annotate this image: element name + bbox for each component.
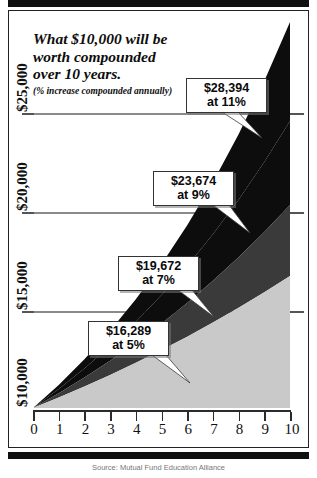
callout-5-percent: $16,289 at 5% bbox=[88, 321, 169, 356]
bottom-rule bbox=[8, 452, 309, 459]
callout-rate-9: at 9% bbox=[160, 189, 227, 203]
ytick-label-25000: $25,000 bbox=[14, 63, 31, 112]
callout-rate-5: at 5% bbox=[95, 339, 162, 353]
callout-rate-7: at 7% bbox=[125, 274, 192, 288]
xtick-label-8: 8 bbox=[230, 421, 250, 438]
ytick-label-15000: $15,000 bbox=[14, 261, 31, 310]
ytick-label-10000: $10,000 bbox=[14, 358, 31, 407]
gridtick-right-20000 bbox=[290, 212, 304, 214]
xtick-label-0: 0 bbox=[24, 421, 44, 438]
xtick-label-7: 7 bbox=[204, 421, 224, 438]
callout-amount-5: $16,289 bbox=[95, 325, 162, 339]
xtick-5 bbox=[162, 412, 164, 421]
ytick-label-20000: $20,000 bbox=[14, 162, 31, 211]
gridtick-right-25000 bbox=[290, 113, 304, 115]
xtick-label-5: 5 bbox=[153, 421, 173, 438]
xtick-label-6: 6 bbox=[178, 421, 198, 438]
xtick-2 bbox=[84, 412, 86, 421]
xtick-label-1: 1 bbox=[50, 421, 70, 438]
xtick-4 bbox=[136, 412, 138, 421]
xtick-3 bbox=[110, 412, 112, 421]
callout-amount-11: $28,394 bbox=[193, 82, 260, 96]
xtick-label-9: 9 bbox=[255, 421, 275, 438]
xtick-label-2: 2 bbox=[75, 421, 95, 438]
xtick-6 bbox=[187, 412, 189, 421]
chart-figure: $25,000 $20,000 $15,000 $10,000 0 1 2 3 … bbox=[0, 0, 317, 478]
xtick-label-10: 10 bbox=[282, 421, 302, 438]
source-caption: Source: Mutual Fund Education Alliance bbox=[0, 463, 317, 472]
xtick-1 bbox=[59, 412, 61, 421]
callout-9-percent: $23,674 at 9% bbox=[153, 171, 234, 206]
callout-rate-11: at 11% bbox=[193, 96, 260, 110]
xtick-9 bbox=[264, 412, 266, 421]
xtick-0 bbox=[33, 412, 35, 421]
top-rule bbox=[8, 0, 309, 7]
title-line-2: worth compounded bbox=[33, 48, 213, 66]
xtick-label-3: 3 bbox=[101, 421, 121, 438]
callout-amount-7: $19,672 bbox=[125, 260, 192, 274]
callout-11-percent: $28,394 at 11% bbox=[186, 78, 267, 113]
title-line-1: What $10,000 will be bbox=[33, 30, 213, 48]
xtick-8 bbox=[239, 412, 241, 421]
xtick-10 bbox=[290, 412, 292, 421]
xtick-7 bbox=[213, 412, 215, 421]
callout-7-percent: $19,672 at 7% bbox=[118, 256, 199, 291]
gridtick-right-15000 bbox=[290, 311, 304, 313]
xtick-label-4: 4 bbox=[127, 421, 147, 438]
callout-amount-9: $23,674 bbox=[160, 175, 227, 189]
